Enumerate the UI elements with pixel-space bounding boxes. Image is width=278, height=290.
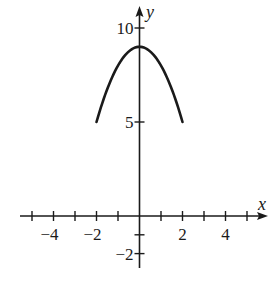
parabola-chart: −4−224105−2 x y: [0, 0, 278, 290]
x-axis-label: x: [257, 194, 266, 214]
y-tick-label: 5: [125, 113, 134, 132]
x-tick-label: 4: [221, 225, 230, 244]
y-axis-label: y: [144, 2, 154, 22]
x-tick-label: 2: [178, 225, 187, 244]
tick-labels: −4−224105−2: [40, 19, 230, 264]
y-tick-label: −2: [115, 245, 133, 264]
y-tick-label: 10: [117, 19, 134, 38]
x-tick-label: −4: [40, 225, 59, 244]
x-tick-label: −2: [83, 225, 101, 244]
